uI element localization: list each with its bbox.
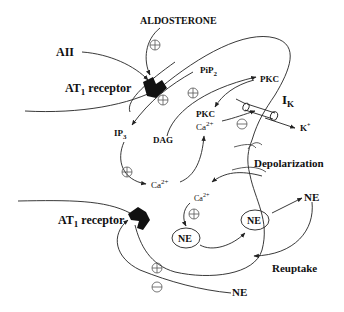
label-aii: AII: [56, 45, 74, 59]
label-dag: DAG: [153, 135, 173, 145]
membrane-upper-arc: [160, 36, 290, 140]
arrow-ne-to-receptor: [117, 220, 231, 293]
arrow-vesicle-to-vesicle: [200, 233, 245, 248]
cell-membranes: [18, 36, 290, 275]
membrane-synapse: [135, 140, 264, 276]
label-ne-right: NE: [304, 191, 319, 203]
arrow-ik-to-k: [265, 118, 295, 128]
label-ip3: IP3: [114, 128, 127, 141]
arrow-pkc-to-pkc: [215, 80, 254, 107]
minus-sign-icon: [152, 282, 162, 292]
plus-sign-icon: [122, 167, 132, 177]
label-at1-receptor-bottom: AT1 receptor: [58, 213, 125, 229]
diagram-canvas: ALDOSTERONE AII AT1 receptor PiP2 PKC IK…: [0, 0, 344, 312]
plus-sign-icon: [188, 88, 198, 98]
plus-sign-icon: [158, 95, 168, 105]
arrow-aii-to-receptor: [82, 52, 148, 80]
label-at1-receptor-top: AT1 receptor: [65, 81, 132, 97]
membrane-lower-left: [18, 201, 130, 213]
arrow-ca-to-ik: [222, 111, 255, 121]
label-aldosterone: ALDOSTERONE: [140, 15, 217, 26]
arrow-ne-release: [272, 198, 302, 213]
label-depolarization: Depolarization: [254, 157, 324, 169]
at1-receptor-bottom-icon: [128, 207, 150, 230]
label-ik: IK: [282, 92, 294, 109]
plus-sign-icon: [150, 40, 160, 50]
minus-sign-icon: [237, 119, 247, 129]
label-ca-synapse: Ca2+: [194, 192, 210, 203]
arrow-ca-to-pkc-ca: [180, 136, 204, 182]
label-pkc-top: PKC: [260, 74, 279, 84]
label-ca-low: Ca2+: [151, 178, 169, 190]
plus-sign-icon: [189, 209, 199, 219]
arrow-aldosterone-to-receptor: [146, 28, 160, 75]
ik-channel-icon: [236, 99, 279, 121]
label-pip2: PiP2: [200, 65, 218, 78]
depolarization-mark-top: [234, 143, 262, 149]
arrow-pip2-to-ip3: [132, 72, 193, 125]
label-reuptake: Reuptake: [272, 262, 317, 274]
arrow-depol-to-ca: [212, 173, 262, 182]
label-ne-vesicle-2: NE: [247, 215, 261, 226]
label-k-plus: K+: [300, 122, 311, 133]
plus-sign-icon: [152, 263, 162, 273]
label-ne-vesicle-1: NE: [178, 233, 192, 244]
arrow-ip3-to-ca: [121, 142, 146, 184]
label-ca-mid: Ca2+: [196, 120, 214, 132]
label-ne-bottom: NE: [232, 286, 247, 298]
label-pkc-mid: PKC: [196, 109, 215, 119]
